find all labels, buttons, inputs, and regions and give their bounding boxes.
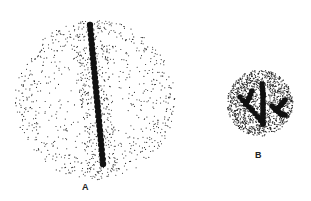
panel-label-b: B: [255, 150, 262, 160]
cell-b: [227, 70, 294, 137]
chromosome-bead: [269, 103, 275, 109]
chromosome-bead: [282, 112, 288, 118]
panel-label-a: A: [82, 182, 89, 192]
chromosome-bead: [260, 121, 266, 127]
cell-diagram: [0, 0, 311, 201]
chromosome-bead: [100, 161, 106, 167]
chromosome-bead: [243, 101, 249, 107]
cell-a: [15, 20, 175, 180]
